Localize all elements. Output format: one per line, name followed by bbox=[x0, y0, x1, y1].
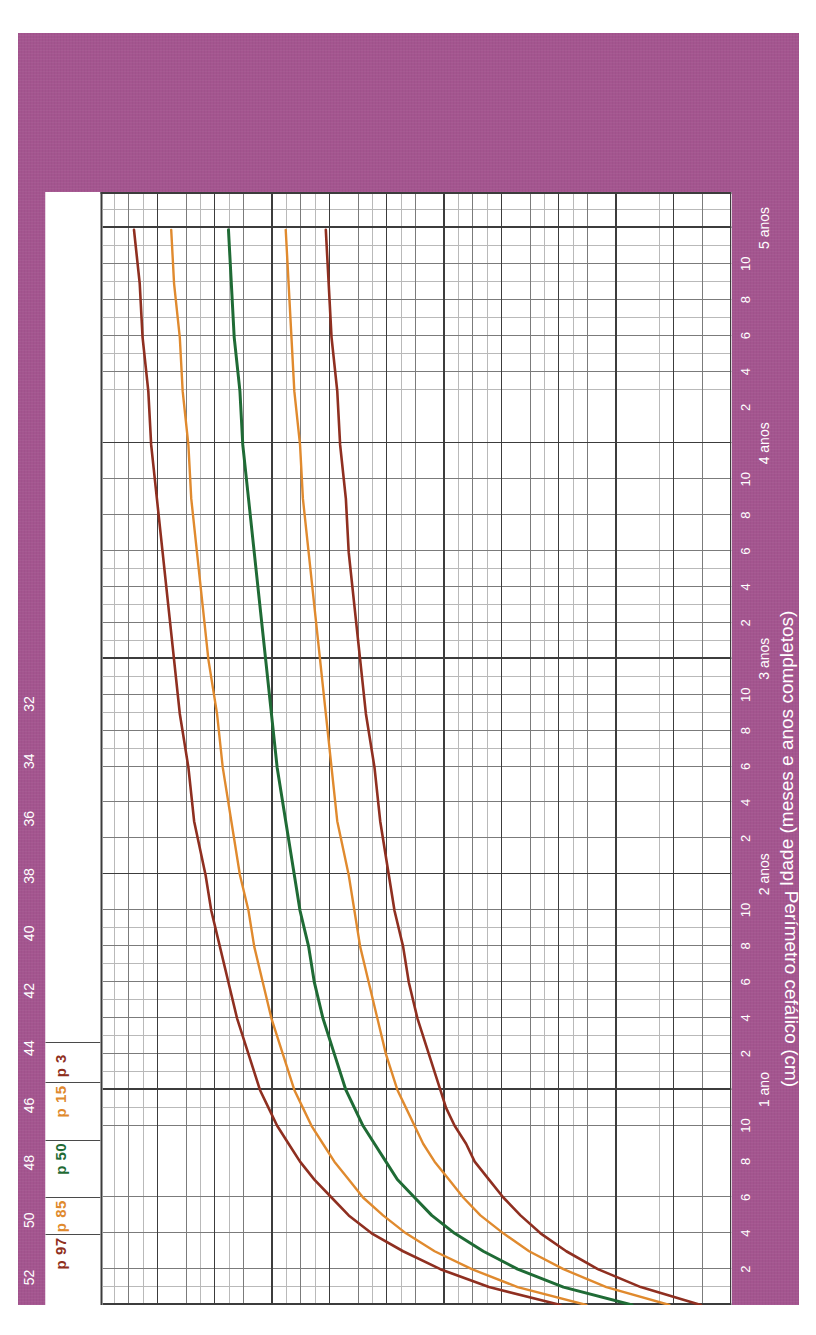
x-tick-month-label: 2 bbox=[737, 1050, 752, 1057]
x-tick-month-label: 2 bbox=[737, 835, 752, 842]
x-tick-month-label: 4 bbox=[737, 799, 752, 806]
x-tick-month-label: 6 bbox=[737, 763, 752, 770]
curve-p97 bbox=[133, 230, 560, 1305]
x-tick-month-label: 6 bbox=[737, 547, 752, 554]
x-tick-month-label: 2 bbox=[737, 619, 752, 626]
x-tick-month-label: 8 bbox=[737, 942, 752, 949]
x-tick-month-label: 10 bbox=[737, 687, 752, 701]
x-tick-month-label: 10 bbox=[737, 257, 752, 271]
x-tick-month-label: 6 bbox=[737, 1194, 752, 1201]
percentile-curves bbox=[102, 194, 731, 1305]
x-tick-year-label: 1 ano bbox=[755, 1072, 771, 1107]
x-tick-month-label: 4 bbox=[737, 1230, 752, 1237]
x-tick-month-label: 10 bbox=[737, 903, 752, 917]
chart-card: p 97p 85p 50p 15p 3 52504846444240383634… bbox=[18, 33, 799, 1305]
y-axis-title: Perímetro cefálico (cm) bbox=[779, 891, 801, 1087]
curve-p15 bbox=[285, 230, 669, 1305]
x-axis-ticks: 2468102468102468102468102468101 ano2 ano… bbox=[18, 192, 78, 1305]
x-tick-month-label: 8 bbox=[737, 296, 752, 303]
x-tick-year-label: 5 anos bbox=[755, 207, 771, 249]
x-unit-label: Meses bbox=[737, 1313, 752, 1335]
x-tick-month-label: 2 bbox=[737, 404, 752, 411]
chart-stage: p 97p 85p 50p 15p 3 52504846444240383634… bbox=[18, 33, 799, 1305]
x-tick-month-label: 4 bbox=[737, 368, 752, 375]
x-tick-year-label: 3 anos bbox=[755, 638, 771, 680]
x-tick-month-label: 6 bbox=[737, 978, 752, 985]
x-tick-month-label: 4 bbox=[737, 1014, 752, 1021]
x-tick-month-label: 8 bbox=[737, 727, 752, 734]
x-tick-month-label: 4 bbox=[737, 583, 752, 590]
x-tick-year-label: 2 anos bbox=[755, 853, 771, 895]
x-tick-month-label: 2 bbox=[737, 1265, 752, 1272]
x-tick-month-label: 6 bbox=[737, 332, 752, 339]
curve-p85 bbox=[171, 230, 586, 1305]
x-tick-month-label: 10 bbox=[737, 472, 752, 486]
curve-p3 bbox=[325, 230, 700, 1305]
x-axis-title: Idade (meses e anos completos) bbox=[775, 611, 797, 887]
x-tick-year-label: 4 anos bbox=[755, 422, 771, 464]
plot-area bbox=[100, 192, 731, 1305]
x-tick-month-label: 8 bbox=[737, 512, 752, 519]
x-origin-label: Nascimento bbox=[755, 1308, 770, 1335]
x-tick-month-label: 8 bbox=[737, 1158, 752, 1165]
x-tick-month-label: 10 bbox=[737, 1118, 752, 1132]
